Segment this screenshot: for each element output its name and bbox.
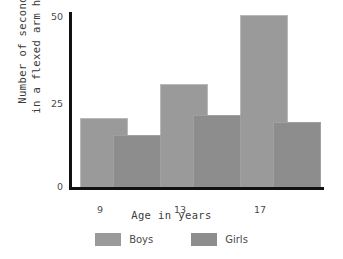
- x-axis-line: [69, 187, 324, 190]
- bar-chart: Number of secondsin a flexed arm hang 50…: [0, 0, 343, 259]
- legend-item-boys[interactable]: Boys: [95, 233, 153, 246]
- y-axis-title-line-1: Number of seconds: [16, 0, 28, 104]
- x-axis-title: Age in years: [0, 209, 343, 221]
- bar-group-age-17: [240, 15, 321, 187]
- bar-group-age-13: [160, 15, 241, 187]
- legend-label-girls: Girls: [225, 234, 248, 245]
- plot-area: 50 25 0 9 13 17: [69, 12, 324, 190]
- bar-groups: [72, 15, 324, 187]
- y-axis-title-line-2: in a flexed arm hang: [30, 0, 42, 114]
- legend-label-boys: Boys: [129, 234, 153, 245]
- bar-girls-age-9[interactable]: [113, 135, 161, 187]
- y-tick-label-50: 50: [41, 12, 63, 22]
- bar-girls-age-13[interactable]: [193, 115, 241, 187]
- legend-swatch-boys-icon: [95, 233, 121, 246]
- y-tick-label-25: 25: [41, 99, 63, 109]
- bar-group-age-9: [80, 15, 161, 187]
- legend-item-girls[interactable]: Girls: [191, 233, 248, 246]
- legend: Boys Girls: [0, 233, 343, 246]
- y-tick-label-0: 0: [41, 182, 63, 192]
- y-axis-title: Number of secondsin a flexed arm hang: [16, 0, 43, 139]
- bar-girls-age-17[interactable]: [273, 122, 321, 187]
- legend-swatch-girls-icon: [191, 233, 217, 246]
